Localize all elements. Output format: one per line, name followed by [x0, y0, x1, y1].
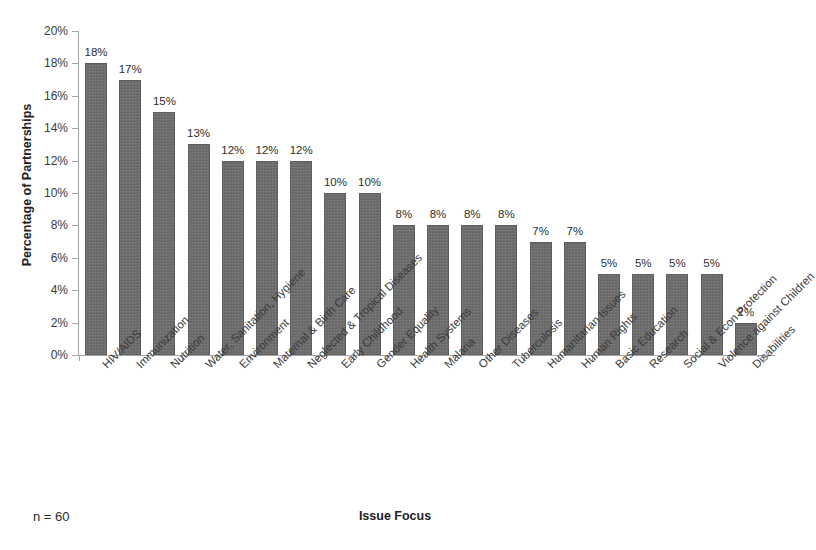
y-axis-tick — [72, 63, 78, 64]
y-axis-tick — [72, 225, 78, 226]
y-axis-tick — [72, 128, 78, 129]
bar-value-label: 18% — [73, 46, 119, 58]
y-axis-tick-label: 8% — [28, 219, 68, 231]
y-axis-tick — [72, 355, 78, 356]
y-axis-tick-label: 12% — [28, 155, 68, 167]
bar-value-label: 8% — [483, 208, 529, 220]
bar — [119, 80, 141, 355]
bar — [188, 144, 210, 355]
x-axis-tick — [79, 356, 80, 361]
y-axis-tick — [72, 161, 78, 162]
y-axis-tick — [72, 258, 78, 259]
y-axis-tick-label: 0% — [28, 349, 68, 361]
y-axis-tick-label: 2% — [28, 317, 68, 329]
y-axis-tick-label: 4% — [28, 284, 68, 296]
bar — [85, 63, 107, 355]
y-axis-tick-label: 14% — [28, 122, 68, 134]
y-axis-tick — [72, 96, 78, 97]
bar — [461, 225, 483, 355]
x-axis-title: Issue Focus — [305, 509, 485, 523]
bar-value-label: 15% — [141, 95, 187, 107]
y-axis-tick-label: 16% — [28, 90, 68, 102]
y-axis-tick-label: 20% — [28, 25, 68, 37]
bar-value-label: 5% — [689, 257, 735, 269]
y-axis-tick — [72, 323, 78, 324]
y-axis-tick-label: 6% — [28, 252, 68, 264]
bar-value-label: 10% — [347, 176, 393, 188]
y-axis-line — [78, 31, 79, 356]
y-axis-tick-label: 10% — [28, 187, 68, 199]
bar-value-label: 12% — [278, 144, 324, 156]
y-axis-tick — [72, 31, 78, 32]
bar — [153, 112, 175, 355]
y-axis-tick-label: 18% — [28, 57, 68, 69]
y-axis-tick — [72, 290, 78, 291]
sample-size-note: n = 60 — [33, 509, 70, 524]
bar-value-label: 17% — [107, 63, 153, 75]
y-axis-tick — [72, 193, 78, 194]
bar-value-label: 7% — [552, 225, 598, 237]
bar-value-label: 13% — [176, 127, 222, 139]
